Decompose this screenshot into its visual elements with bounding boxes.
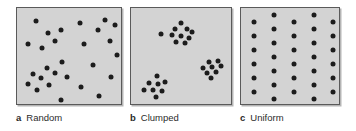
data-point <box>65 75 70 80</box>
data-point <box>160 89 165 94</box>
data-point <box>187 36 192 41</box>
data-point <box>209 76 214 81</box>
data-point <box>103 18 108 23</box>
data-point <box>113 23 118 28</box>
panel-c-plot-area <box>241 8 339 104</box>
data-point <box>35 88 40 93</box>
data-point <box>331 48 336 53</box>
data-point <box>252 34 257 39</box>
data-point <box>183 41 188 46</box>
data-point <box>272 97 277 102</box>
data-point <box>179 34 184 39</box>
data-point <box>170 33 175 38</box>
data-point <box>174 40 179 45</box>
panel-b-clumped <box>130 7 232 105</box>
data-point <box>78 21 83 26</box>
data-point <box>312 41 317 46</box>
data-point <box>159 32 164 37</box>
data-point <box>292 48 297 53</box>
data-point <box>272 83 277 88</box>
data-point <box>96 28 101 33</box>
data-point <box>252 48 257 53</box>
data-point <box>205 71 210 76</box>
data-point <box>142 88 147 93</box>
data-point <box>272 27 277 32</box>
panel-c-letter: c <box>240 112 245 123</box>
data-point <box>219 64 224 69</box>
data-point <box>47 83 52 88</box>
panel-b-letter: b <box>130 112 136 123</box>
data-point <box>331 90 336 95</box>
panel-c-caption: cUniform <box>240 112 284 124</box>
data-point <box>59 28 64 33</box>
data-point <box>39 76 44 81</box>
data-point <box>60 60 65 65</box>
data-point <box>201 66 206 71</box>
data-point <box>214 70 219 75</box>
data-point <box>45 66 50 71</box>
data-point <box>91 63 96 68</box>
data-point <box>252 76 257 81</box>
data-point <box>252 20 257 25</box>
data-point <box>40 46 45 51</box>
data-point <box>331 34 336 39</box>
data-point <box>312 13 317 18</box>
data-point <box>163 80 168 85</box>
panel-b-label: Clumped <box>141 112 179 123</box>
data-point <box>272 13 277 18</box>
data-point <box>252 90 257 95</box>
data-point <box>115 53 120 58</box>
panel-b-caption: bClumped <box>130 112 179 124</box>
data-point <box>312 97 317 102</box>
data-point <box>292 62 297 67</box>
data-point <box>154 95 159 100</box>
data-point <box>173 27 178 32</box>
data-point <box>312 27 317 32</box>
data-point <box>59 98 64 103</box>
data-point <box>272 41 277 46</box>
data-point <box>26 42 31 47</box>
panel-a-caption: aRandom <box>16 112 62 124</box>
panel-c-uniform <box>240 7 340 105</box>
data-point <box>155 74 160 79</box>
data-point <box>34 19 39 24</box>
data-point <box>292 34 297 39</box>
data-point <box>97 94 102 99</box>
data-point <box>312 55 317 60</box>
panel-b-plot-area <box>131 8 231 104</box>
data-point <box>190 30 195 35</box>
data-point <box>331 62 336 67</box>
data-point <box>151 88 156 93</box>
data-point <box>331 76 336 81</box>
data-point <box>26 82 31 87</box>
data-point <box>312 69 317 74</box>
data-point <box>179 21 184 26</box>
panel-a-label: Random <box>26 112 62 123</box>
data-point <box>156 82 161 87</box>
panel-a-random <box>16 7 122 105</box>
data-point <box>272 55 277 60</box>
data-point <box>147 81 152 86</box>
data-point <box>82 42 87 47</box>
data-point <box>109 75 114 80</box>
data-point <box>108 39 113 44</box>
data-point <box>252 62 257 67</box>
data-point <box>292 76 297 81</box>
data-point <box>292 20 297 25</box>
panel-a-letter: a <box>16 112 21 123</box>
data-point <box>331 20 336 25</box>
data-point <box>272 69 277 74</box>
data-point <box>53 39 58 44</box>
data-point <box>46 31 51 36</box>
data-point <box>31 72 36 77</box>
data-point <box>79 85 84 90</box>
data-point <box>53 71 58 76</box>
panel-a-plot-area <box>17 8 121 104</box>
data-point <box>210 65 215 70</box>
dispersion-patterns-figure: aRandom bClumped cUniform <box>0 0 356 131</box>
panel-c-label: Uniform <box>250 112 283 123</box>
data-point <box>312 83 317 88</box>
data-point <box>292 90 297 95</box>
